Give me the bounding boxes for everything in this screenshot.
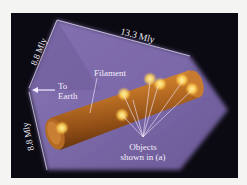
object-glow — [55, 121, 69, 135]
object-glow — [185, 82, 199, 96]
object-glow — [153, 77, 167, 91]
objects-label-line2: shown in (a) — [121, 152, 166, 162]
to-earth-label-line1: To — [58, 81, 68, 91]
objects-label-line1: Objects — [129, 142, 157, 152]
to-earth-label-line2: Earth — [58, 91, 78, 101]
filament-label: Filament — [94, 68, 126, 78]
object-glow — [117, 87, 131, 101]
filament-diagram: 13.3 Mly 8.8 Mly 8.8 Mly To Earth Filame… — [0, 0, 247, 185]
